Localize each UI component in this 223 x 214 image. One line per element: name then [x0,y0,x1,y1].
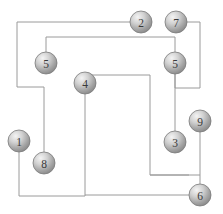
node-9[interactable]: 9 [189,110,211,132]
node-2-circle[interactable] [130,11,152,33]
node-5-left-circle[interactable] [35,52,57,74]
node-4[interactable]: 4 [74,72,96,94]
node-7-circle[interactable] [165,11,187,33]
node-1-circle[interactable] [8,130,30,152]
node-5-right[interactable]: 5 [164,52,186,74]
diagram-svg: 1275549386 [0,0,223,214]
diagram-canvas: 1275549386 [0,0,223,214]
node-9-circle[interactable] [189,110,211,132]
node-6-circle[interactable] [189,184,211,206]
node-3[interactable]: 3 [164,131,186,153]
node-1[interactable]: 1 [8,130,30,152]
node-8[interactable]: 8 [33,152,55,174]
node-3-circle[interactable] [164,131,186,153]
node-8-circle[interactable] [33,152,55,174]
edge-4-to-6 [85,72,189,175]
node-2[interactable]: 2 [130,11,152,33]
node-5-right-circle[interactable] [164,52,186,74]
node-4-circle[interactable] [74,72,96,94]
edge-5left-to-5right [46,37,175,52]
node-5-left[interactable]: 5 [35,52,57,74]
node-layer: 1275549386 [8,11,211,206]
node-6[interactable]: 6 [189,184,211,206]
node-7[interactable]: 7 [165,11,187,33]
edge-2-to-8 [17,22,130,152]
